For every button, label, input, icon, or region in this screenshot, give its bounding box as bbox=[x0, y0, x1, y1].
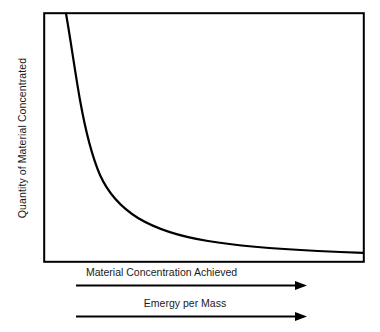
plot-svg bbox=[43, 12, 365, 263]
plot-area bbox=[43, 12, 365, 263]
plot-frame bbox=[44, 13, 364, 262]
chart-figure: Quantity of Material Concentrated Materi… bbox=[0, 0, 380, 332]
annotation-material-concentration: Material Concentration Achieved bbox=[76, 266, 308, 291]
arrow-right-icon bbox=[76, 280, 308, 291]
annotation-label-material-concentration: Material Concentration Achieved bbox=[76, 266, 308, 279]
y-axis-label-container: Quantity of Material Concentrated bbox=[0, 0, 44, 275]
arrow-right-icon bbox=[76, 311, 308, 322]
annotation-emergy-per-mass: Emergy per Mass bbox=[76, 297, 308, 322]
y-axis-label: Quantity of Material Concentrated bbox=[16, 57, 28, 217]
arrow-annotations: Material Concentration Achieved Emergy p… bbox=[0, 264, 380, 332]
annotation-label-emergy-per-mass: Emergy per Mass bbox=[76, 297, 308, 310]
